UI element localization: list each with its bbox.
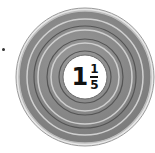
numerator: 1 (90, 63, 98, 75)
fraction: 1 5 (90, 63, 98, 91)
mixed-number-label: 1 1 5 (63, 55, 107, 99)
bullet-dot (2, 48, 5, 51)
whole-number: 1 (71, 65, 88, 89)
denominator: 5 (90, 79, 98, 91)
